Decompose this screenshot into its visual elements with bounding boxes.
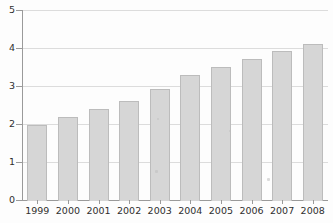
bar-2004 [180, 75, 200, 201]
x-tick-mark-2003 [160, 200, 161, 204]
bar-chart: 5 4 3 2 1 0 1999200020012002200320042005… [0, 0, 333, 223]
bar-1999 [27, 125, 47, 201]
bar-2002 [119, 101, 139, 201]
y-tick-label-4: 4 [2, 43, 15, 53]
x-tick-mark-2005 [221, 200, 222, 204]
x-tick-mark-2008 [313, 200, 314, 204]
bar-2003 [150, 89, 170, 201]
scan-artifact [155, 170, 158, 173]
x-tick-label-1999: 1999 [21, 205, 53, 216]
x-tick-mark-1999 [37, 200, 38, 204]
bar-2006 [242, 59, 262, 201]
x-tick-label-2001: 2001 [83, 205, 115, 216]
x-tick-label-2002: 2002 [113, 205, 145, 216]
y-tick-label-3: 3 [2, 81, 15, 91]
bar-2001 [89, 109, 109, 201]
x-tick-label-2003: 2003 [144, 205, 176, 216]
scan-artifact [229, 130, 231, 132]
x-tick-mark-2000 [68, 200, 69, 204]
bar-2005 [211, 67, 231, 201]
y-tick-label-2: 2 [2, 119, 15, 129]
bar-2007 [272, 51, 292, 201]
x-tick-label-2000: 2000 [52, 205, 84, 216]
scan-artifact [157, 118, 159, 120]
x-tick-mark-2006 [252, 200, 253, 204]
scan-artifact [267, 178, 270, 181]
y-tick-label-1: 1 [2, 157, 15, 167]
x-tick-label-2007: 2007 [266, 205, 298, 216]
x-tick-label-2005: 2005 [205, 205, 237, 216]
bar-2008 [303, 44, 323, 201]
x-tick-mark-2001 [99, 200, 100, 204]
x-tick-mark-2004 [190, 200, 191, 204]
x-tick-label-2004: 2004 [174, 205, 206, 216]
bar-series [22, 10, 328, 201]
y-tick-label-0: 0 [2, 195, 15, 205]
y-tick-label-5: 5 [2, 5, 15, 15]
bar-2000 [58, 117, 78, 201]
x-tick-label-2008: 2008 [297, 205, 329, 216]
x-tick-label-2006: 2006 [236, 205, 268, 216]
x-tick-mark-2007 [282, 200, 283, 204]
x-tick-mark-2002 [129, 200, 130, 204]
